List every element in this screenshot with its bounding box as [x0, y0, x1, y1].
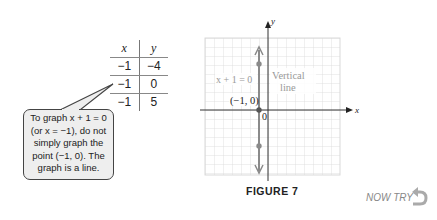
- equation-label: x + 1 = 0: [216, 74, 252, 85]
- origin-label: 0: [262, 111, 267, 122]
- x-axis-arrow-icon: [346, 107, 353, 113]
- figure-caption: FIGURE 7: [246, 185, 298, 197]
- grid: [205, 38, 340, 175]
- annotation-line: line: [280, 82, 296, 93]
- point-neg1-neg4: [256, 143, 261, 148]
- x-axis-label: x: [354, 105, 359, 115]
- annotation-vertical: Vertical: [272, 70, 305, 81]
- coordinate-graph: x + 1 = 0 Vertical line (−1, 0) 0 x y: [0, 0, 437, 220]
- point-neg1-5: [256, 61, 261, 66]
- point-neg1-0: [256, 107, 261, 112]
- now-try-arrow-icon[interactable]: [410, 186, 430, 208]
- now-try-label[interactable]: NOW TRY: [366, 192, 413, 203]
- point-label: (−1, 0): [230, 95, 259, 107]
- y-axis-label: y: [270, 16, 275, 26]
